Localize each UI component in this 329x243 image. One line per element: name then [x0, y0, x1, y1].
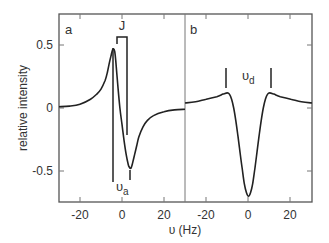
nu-d-symbol: υ — [242, 68, 249, 83]
nu-a-subscript: a — [123, 186, 129, 197]
x-tick-label: 0 — [119, 208, 126, 222]
nu-d-label: υd — [242, 68, 255, 86]
x-tick-label: -20 — [71, 208, 89, 222]
x-tick-label: -20 — [197, 208, 215, 222]
spectrum-curve-a — [59, 49, 185, 169]
x-axis-label: υ (Hz) — [169, 223, 202, 237]
j-label: J — [119, 18, 126, 33]
x-tick-label: 0 — [245, 208, 252, 222]
nu-a-label: υa — [116, 179, 129, 197]
x-ticks-panel-b — [206, 14, 290, 202]
x-tick-label: 20 — [283, 208, 297, 222]
nmr-spectrum-figure: 0.5 0 -0.5 -20 0 20 -20 0 20 υ (Hz) rela… — [0, 0, 329, 243]
y-tick-label: 0.5 — [36, 38, 53, 52]
nu-d-subscript: d — [249, 75, 255, 86]
x-ticks-panel-a — [80, 14, 164, 202]
y-tick-label: -0.5 — [32, 164, 53, 178]
nu-a-symbol: υ — [116, 179, 123, 194]
y-tick-label: 0 — [46, 101, 53, 115]
panel-label-b: b — [190, 22, 197, 37]
y-axis-label: relative intensity — [16, 65, 30, 151]
spectrum-curve-b — [185, 93, 312, 196]
panel-label-a: a — [65, 22, 73, 37]
x-tick-label: 20 — [157, 208, 171, 222]
